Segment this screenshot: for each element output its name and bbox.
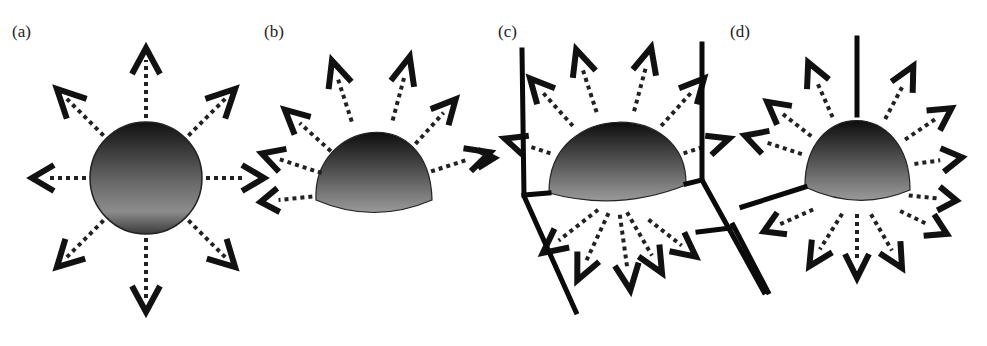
arrow-icon [259, 185, 313, 214]
arrow-icon [760, 92, 819, 145]
panel-label-a: (a) [12, 22, 31, 41]
arrow-icon [536, 200, 606, 262]
panel-label-d: (d) [730, 22, 750, 41]
arrow-icon [179, 211, 245, 277]
arrow-icon [132, 238, 160, 312]
arrow-icon [799, 207, 852, 272]
arrow-icon [898, 98, 958, 149]
cap-droplet [805, 121, 910, 201]
arrow-icon [875, 60, 924, 124]
panel-a: (a) [12, 22, 264, 312]
arrow-icon [321, 57, 364, 125]
arrow-icon [502, 129, 554, 163]
arrow-icon [47, 211, 113, 277]
arrow-icon [565, 46, 608, 116]
panel-label-b: (b) [264, 22, 284, 41]
panel-label-c: (c) [498, 22, 517, 41]
arrow-icon [861, 208, 913, 274]
arrow-icon [206, 165, 264, 191]
arrow-icon [680, 129, 732, 163]
arrow-icon [913, 145, 964, 175]
arrow-icon [566, 208, 619, 285]
arrow-icon [759, 199, 818, 243]
arrow-icon [622, 44, 662, 114]
arrow-icon [907, 184, 957, 213]
panel-d: (d) [730, 22, 964, 292]
arrow-icon [641, 210, 703, 266]
arrow-icon [797, 57, 843, 122]
sphere-droplet [90, 122, 202, 234]
cap-droplet [316, 132, 432, 212]
figure-canvas: (a) [0, 0, 987, 346]
arrow-icon [617, 206, 673, 279]
arrow-icon [521, 70, 582, 134]
arrow-icon [47, 79, 113, 145]
panel-c: (c) [478, 22, 764, 312]
arrow-icon [132, 48, 160, 118]
arrow-icon [179, 79, 245, 145]
panel-b: (b) [258, 22, 494, 214]
arrow-icon [32, 165, 86, 191]
cap-droplet [549, 122, 686, 201]
arrow-icon [407, 91, 465, 152]
arrow-icon [741, 124, 805, 165]
arrow-icon [608, 213, 642, 292]
arrow-icon [845, 214, 869, 278]
arrow-icon [381, 54, 421, 124]
